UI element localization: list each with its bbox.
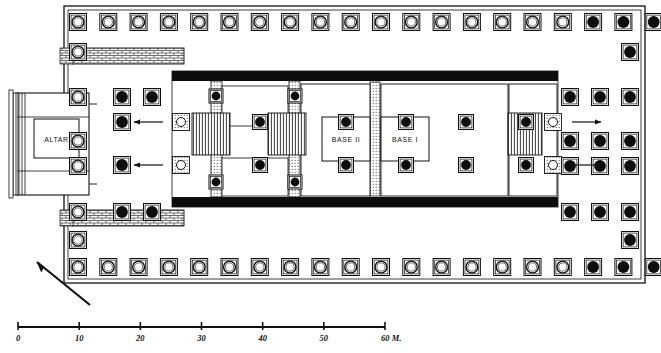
column-east-r4-c3 xyxy=(622,158,639,175)
column-east-r2-c2 xyxy=(592,89,609,106)
column-east-r6-c3 xyxy=(622,232,639,249)
column-west-return-3 xyxy=(70,133,87,150)
threshold-column-west-2 xyxy=(173,157,190,174)
interior-columns-north-1 xyxy=(339,115,354,130)
staircase-west xyxy=(192,113,230,155)
pronaos-columns-south-1 xyxy=(253,158,268,173)
interior-columns-north-2 xyxy=(399,115,414,130)
column-south-4 xyxy=(160,259,177,276)
scale-tick-label-50: 50 xyxy=(320,333,329,343)
column-west-return-1 xyxy=(70,44,87,61)
column-north-2 xyxy=(100,14,117,31)
column-south-15 xyxy=(494,259,511,276)
cross-wall-column-3 xyxy=(288,89,302,103)
column-south-10 xyxy=(342,259,359,276)
column-north-1 xyxy=(70,14,87,31)
column-east-r2-c3 xyxy=(622,89,639,106)
column-south-16 xyxy=(524,259,541,276)
altar-label: ALTAR xyxy=(44,136,69,143)
column-west-return-2 xyxy=(70,89,87,106)
column-north-12 xyxy=(403,14,420,31)
scale-tick-label-60: 60 M. xyxy=(381,333,401,343)
cross-wall-column-4 xyxy=(288,175,302,189)
interior-columns-south-1 xyxy=(339,158,354,173)
column-south-20 xyxy=(645,259,661,276)
column-south-1 xyxy=(70,259,87,276)
column-west-return-4 xyxy=(70,158,87,175)
column-north-9 xyxy=(312,14,329,31)
interior-columns-north-3 xyxy=(459,115,474,130)
column-north-11 xyxy=(373,14,390,31)
column-north-10 xyxy=(342,14,359,31)
column-south-11 xyxy=(373,259,390,276)
column-south-12 xyxy=(403,259,420,276)
column-west-return-5 xyxy=(70,204,87,221)
threshold-column-east-2 xyxy=(545,157,562,174)
column-north-6 xyxy=(221,14,238,31)
column-west-porch-3 xyxy=(114,204,131,221)
column-north-14 xyxy=(463,14,480,31)
column-east-r3-c2 xyxy=(592,133,609,150)
column-north-5 xyxy=(191,14,208,31)
column-south-14 xyxy=(463,259,480,276)
column-west-porch-1 xyxy=(114,89,131,106)
interior-columns-south-3 xyxy=(459,158,474,173)
column-east-r4-c1 xyxy=(562,158,579,175)
scale-tick-label-0: 0 xyxy=(16,333,21,343)
column-north-17 xyxy=(554,14,571,31)
scale-tick-label-10: 10 xyxy=(75,333,84,343)
plan-canvas: ALTAR BASE II xyxy=(0,0,661,353)
threshold-column-east-1 xyxy=(545,114,562,131)
column-north-3 xyxy=(130,14,147,31)
column-north-20 xyxy=(645,14,661,31)
column-south-7 xyxy=(251,259,268,276)
column-east-r1-c3 xyxy=(622,44,639,61)
scale-bar: 0102030405060 M. xyxy=(16,322,401,343)
west-ramp-north xyxy=(72,48,184,64)
threshold-column-west-1 xyxy=(173,114,190,131)
cross-wall-column-2 xyxy=(209,175,223,189)
cella-south-wall xyxy=(172,197,558,207)
column-east-r5-c2 xyxy=(592,204,609,221)
column-west-porch-2 xyxy=(144,89,161,106)
column-north-13 xyxy=(433,14,450,31)
interior-columns-south-2 xyxy=(399,158,414,173)
column-north-16 xyxy=(524,14,541,31)
column-west-return-6 xyxy=(70,232,87,249)
column-west-inner-1 xyxy=(114,114,131,131)
column-south-13 xyxy=(433,259,450,276)
column-north-15 xyxy=(494,14,511,31)
temple-floor-plan: ALTAR BASE II xyxy=(0,0,661,353)
column-east-r4-c2 xyxy=(592,158,609,175)
interior-columns-north-4 xyxy=(519,115,534,130)
column-south-2 xyxy=(100,259,117,276)
staircase-mid xyxy=(268,113,306,155)
cross-wall-column-1 xyxy=(209,89,223,103)
column-east-r3-c3 xyxy=(622,133,639,150)
column-north-8 xyxy=(282,14,299,31)
column-east-r5-c3 xyxy=(622,204,639,221)
base-i-label: BASE I xyxy=(392,136,418,143)
column-east-r5-c1 xyxy=(562,204,579,221)
column-north-7 xyxy=(251,14,268,31)
interior-columns-south-4 xyxy=(519,158,534,173)
pronaos-columns-north-1 xyxy=(253,115,268,130)
column-west-porch-4 xyxy=(144,204,161,221)
column-east-r2-c1 xyxy=(562,89,579,106)
column-south-6 xyxy=(221,259,238,276)
column-south-3 xyxy=(130,259,147,276)
scale-tick-label-20: 20 xyxy=(135,333,145,343)
cella-north-wall xyxy=(172,71,558,81)
column-south-8 xyxy=(282,259,299,276)
scale-tick-label-30: 30 xyxy=(196,333,206,343)
base-ii-label: BASE II xyxy=(332,136,361,143)
column-north-18 xyxy=(585,14,602,31)
column-south-9 xyxy=(312,259,329,276)
column-south-5 xyxy=(191,259,208,276)
scale-tick-label-40: 40 xyxy=(257,333,267,343)
column-south-17 xyxy=(554,259,571,276)
cella-divider-pier xyxy=(370,82,380,196)
column-north-19 xyxy=(615,14,632,31)
column-west-inner-2 xyxy=(114,157,131,174)
column-north-4 xyxy=(160,14,177,31)
